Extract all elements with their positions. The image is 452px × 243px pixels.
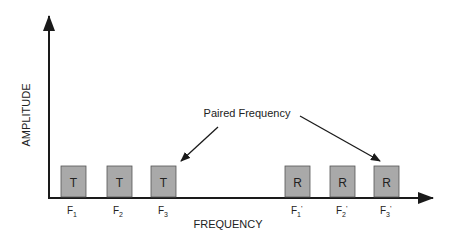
svg-text:R: R	[382, 176, 391, 190]
svg-text:F3: F3	[158, 205, 168, 218]
freq-label-f2-prime: F2'	[336, 204, 348, 218]
frequency-diagram: AMPLITUDE FREQUENCY Paired Frequency T T…	[0, 0, 452, 243]
paired-frequency-label: Paired Frequency	[204, 107, 291, 119]
transmit-box-1: T	[61, 166, 86, 197]
freq-label-f1: F1	[67, 205, 77, 218]
y-axis-label: AMPLITUDE	[20, 84, 32, 147]
transmit-box-3: T	[151, 166, 176, 197]
receive-box-2: R	[330, 166, 355, 197]
receive-box-3: R	[374, 166, 399, 197]
freq-label-f1-prime: F1'	[291, 204, 303, 218]
svg-text:F3': F3'	[380, 204, 392, 218]
freq-label-f3: F3	[158, 205, 168, 218]
svg-text:T: T	[116, 176, 124, 190]
svg-text:F1: F1	[67, 205, 77, 218]
freq-label-f2: F2	[113, 205, 123, 218]
freq-label-f3-prime: F3'	[380, 204, 392, 218]
transmit-box-2: T	[107, 166, 132, 197]
annotation-arrow-right	[300, 116, 380, 161]
svg-text:F2: F2	[113, 205, 123, 218]
svg-text:F1': F1'	[291, 204, 303, 218]
receive-box-1: R	[285, 166, 310, 197]
svg-text:T: T	[70, 176, 78, 190]
x-axis-label: FREQUENCY	[193, 218, 263, 230]
annotation-arrow-left	[181, 127, 218, 161]
svg-text:T: T	[160, 176, 168, 190]
svg-text:R: R	[293, 176, 302, 190]
svg-text:R: R	[338, 176, 347, 190]
svg-text:F2': F2'	[336, 204, 348, 218]
